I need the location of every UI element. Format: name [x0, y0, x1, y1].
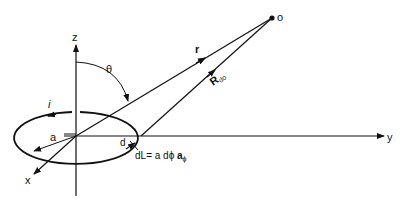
z-axis-label: z	[72, 31, 78, 43]
point-o-label: o	[277, 11, 283, 23]
observation-point: o	[269, 11, 283, 23]
y-axis-label: y	[387, 131, 393, 143]
svg-text:Rdo: Rdo	[207, 69, 227, 89]
r-label: r	[195, 43, 200, 55]
element-d-label: d	[120, 137, 126, 148]
loop-diagram: z y x i a θ r Rdo	[0, 0, 407, 205]
y-axis: y	[64, 131, 393, 143]
theta-angle: θ	[76, 62, 128, 101]
current-label: i	[48, 98, 51, 110]
z-axis: z	[72, 31, 78, 196]
position-vector-r: r	[76, 18, 272, 136]
theta-label: θ	[106, 63, 112, 75]
x-axis-label: x	[25, 174, 31, 186]
separation-vector-R: Rdo	[141, 18, 272, 136]
radius-label: a	[50, 131, 57, 143]
dl-equation: dL= a dϕ aϕ	[135, 150, 187, 163]
